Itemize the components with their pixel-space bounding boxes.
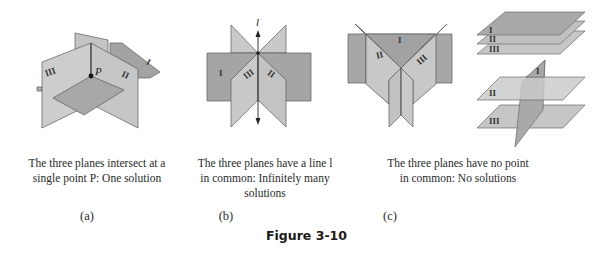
plane-stub-left (37, 87, 42, 91)
line-l-label: l (256, 16, 259, 28)
caption-b-line3: solutions (195, 186, 335, 201)
svg-text:I: I (219, 68, 223, 78)
label-c: (c) (370, 209, 410, 224)
panel-b-diagram: I III II (207, 25, 311, 127)
arrow-up-icon (256, 30, 261, 37)
svg-text:II: II (489, 88, 497, 98)
point-p (89, 74, 94, 79)
caption-b-line1: The three planes have a line l (195, 156, 335, 171)
caption-b: The three planes have a line l in common… (195, 156, 335, 201)
label-a: (a) (67, 209, 107, 224)
caption-b-line2: in common: Infinitely many (195, 171, 335, 186)
panel-c-diagram-left: I II III (348, 24, 452, 127)
caption-c-line2: in common: No solutions (378, 171, 538, 186)
figure-title: Figure 3-10 (0, 228, 613, 243)
arrow-down-icon (256, 118, 261, 125)
svg-text:III: III (489, 44, 500, 54)
plane-back-right (258, 25, 286, 53)
point-p-label: P (94, 65, 102, 77)
svg-text:III: III (489, 116, 500, 126)
caption-a-line2: single point P: One solution (22, 171, 172, 186)
caption-a-line1: The three planes intersect at a (22, 156, 172, 171)
svg-text:I: I (536, 66, 540, 76)
caption-c: The three planes have no point in common… (378, 156, 538, 186)
label-b: (b) (206, 209, 246, 224)
caption-c-line1: The three planes have no point (378, 156, 538, 171)
caption-a: The three planes intersect at a single p… (22, 156, 172, 186)
svg-text:I: I (398, 35, 402, 45)
panel-a-diagram: III II I (37, 33, 160, 128)
plane-back-left (231, 25, 258, 53)
panel-c-diagram-right: I II III I II III (477, 12, 585, 147)
svg-text:II: II (489, 34, 497, 44)
line-point (256, 51, 259, 54)
